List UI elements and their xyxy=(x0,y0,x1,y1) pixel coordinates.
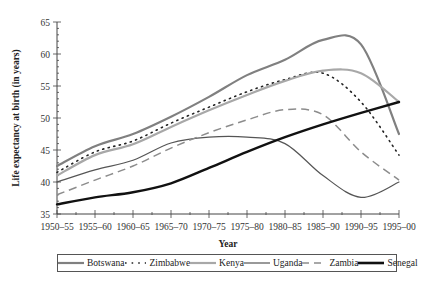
legend: Botswana Zimbabwe Kenya Uganda Zambia Se… xyxy=(57,254,397,272)
y-tick-label: 45 xyxy=(41,146,51,156)
y-tick-label: 35 xyxy=(41,210,51,220)
x-tick-label: 1990–95 xyxy=(344,222,378,232)
x-tick-label: 1950–55 xyxy=(40,222,74,232)
legend-item-botswana: Botswana xyxy=(58,258,124,268)
legend-label: Botswana xyxy=(87,258,124,268)
legend-label: Kenya xyxy=(219,258,244,268)
series-line-uganda xyxy=(57,136,399,197)
series-layer xyxy=(57,35,399,204)
legend-label: Uganda xyxy=(273,258,303,268)
legend-swatch-zimbabwe xyxy=(124,260,146,266)
legend-swatch-senegal xyxy=(358,260,384,266)
legend-swatch-zambia xyxy=(302,260,326,266)
x-tick-label: 1955–60 xyxy=(78,222,112,232)
y-axis: 35404550556065 xyxy=(41,18,62,220)
line-chart: 35404550556065 1950–551955–601960–651965… xyxy=(0,0,430,283)
series-line-zimbabwe xyxy=(57,72,399,172)
series-line-senegal xyxy=(57,102,399,204)
y-tick-label: 40 xyxy=(41,178,51,188)
x-axis-title: Year xyxy=(219,239,239,249)
x-axis: 1950–551955–601960–651965–701970–751975–… xyxy=(40,210,416,232)
x-tick-label: 1960–65 xyxy=(116,222,150,232)
x-tick-label: 1980–85 xyxy=(268,222,302,232)
x-tick-label: 1985–90 xyxy=(306,222,340,232)
y-tick-label: 65 xyxy=(41,18,51,28)
y-axis-title: Life expectancy at birth (in years) xyxy=(11,49,22,186)
legend-label: Zambia xyxy=(329,258,358,268)
legend-swatch-kenya xyxy=(190,260,216,266)
x-tick-label: 1970–75 xyxy=(192,222,226,232)
legend-swatch-botswana xyxy=(58,260,84,266)
legend-item-zimbabwe: Zimbabwe xyxy=(124,258,190,268)
x-tick-label: 1995–00 xyxy=(382,222,416,232)
x-tick-label: 1965–70 xyxy=(154,222,188,232)
legend-item-senegal: Senegal xyxy=(358,258,417,268)
y-tick-label: 60 xyxy=(41,50,51,60)
legend-item-kenya: Kenya xyxy=(190,258,244,268)
series-line-botswana xyxy=(57,35,399,166)
legend-label: Senegal xyxy=(387,258,417,268)
y-tick-label: 50 xyxy=(41,114,51,124)
legend-item-uganda: Uganda xyxy=(244,258,303,268)
y-tick-label: 55 xyxy=(41,82,51,92)
legend-swatch-uganda xyxy=(244,260,270,266)
legend-label: Zimbabwe xyxy=(149,258,190,268)
x-tick-label: 1975–80 xyxy=(230,222,264,232)
legend-item-zambia: Zambia xyxy=(302,258,358,268)
